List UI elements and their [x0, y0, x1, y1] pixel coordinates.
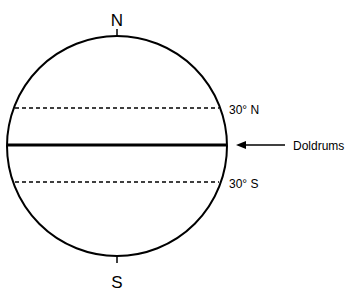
latitude-30n-label: 30° N — [229, 103, 259, 117]
latitude-30s-label: 30° S — [229, 177, 258, 191]
south-label: S — [111, 273, 122, 292]
globe-diagram: N S 30° N 30° S Doldrums — [0, 0, 352, 296]
north-label: N — [111, 11, 123, 30]
doldrums-arrow-icon — [236, 141, 246, 149]
doldrums-label: Doldrums — [293, 139, 344, 153]
